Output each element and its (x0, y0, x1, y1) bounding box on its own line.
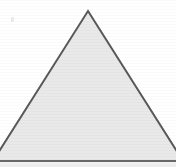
triangle-figure-svg (0, 0, 176, 167)
scan-speckle-artifact (11, 17, 14, 22)
figure-canvas (0, 0, 176, 167)
bottom-strip (0, 163, 176, 168)
